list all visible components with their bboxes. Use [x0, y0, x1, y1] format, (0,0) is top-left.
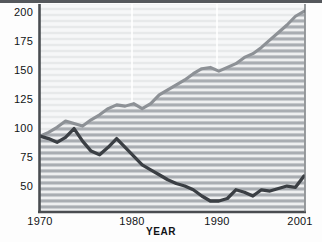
chart-figure: 200 175 150 125 100 75 50 1970 1980 1990…: [0, 0, 322, 242]
plot-canvas: [0, 0, 322, 242]
